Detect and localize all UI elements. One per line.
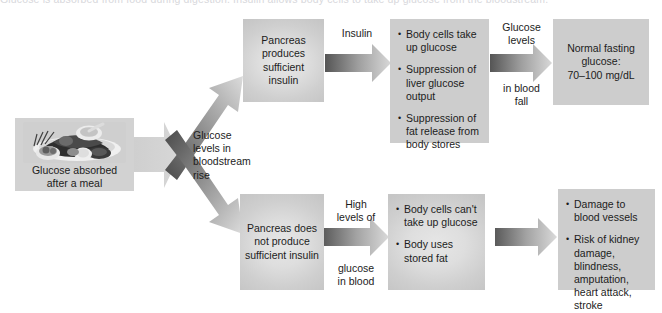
label-high-levels-of: High levels of bbox=[326, 198, 386, 224]
list-item: Suppression of fat release from body sto… bbox=[398, 112, 483, 152]
list-item: Suppression of liver glucose output bbox=[398, 63, 483, 103]
diabetic-effects-bullet-list: Body cells can't take up glucose Body us… bbox=[388, 194, 485, 271]
label-in-blood-fall: in blood fall bbox=[493, 82, 550, 108]
complications-bullet-list: Damage to blood vessels Risk of kidney d… bbox=[558, 189, 655, 313]
normal-effects-bullet-list: Body cells take up glucose Suppression o… bbox=[390, 19, 489, 158]
meal-photo bbox=[23, 122, 126, 163]
arrow-glucose-fall bbox=[490, 44, 552, 82]
label-insulin: Insulin bbox=[327, 27, 387, 40]
arrow-insulin bbox=[325, 44, 391, 82]
node-normal-insulin-effects: Body cells take up glucose Suppression o… bbox=[390, 19, 489, 143]
node-pancreas-sufficient-insulin: Pancreas produces sufficient insulin bbox=[243, 19, 324, 102]
list-item: Risk of kidney damage, blindness, amputa… bbox=[566, 233, 649, 312]
list-item: Damage to blood vessels bbox=[566, 198, 649, 224]
clipped-top-caption: Glucose is absorbed from food during dig… bbox=[0, 0, 662, 5]
node-glucose-absorbed: Glucose absorbed after a meal bbox=[15, 118, 134, 191]
label-glucose-levels: Glucose levels bbox=[493, 21, 550, 47]
diagram-canvas: Glucose is absorbed from food during dig… bbox=[0, 0, 662, 313]
list-item: Body cells take up glucose bbox=[398, 28, 483, 54]
split-connector-stub bbox=[134, 122, 180, 188]
label-glucose-levels-rise: Glucose levels in bloodstream rise bbox=[193, 129, 259, 182]
list-item: Body cells can't take up glucose bbox=[396, 203, 479, 229]
node-pancreas-insufficient-insulin: Pancreas does not produce sufficient ins… bbox=[240, 194, 324, 290]
node-diabetic-cell-effects: Body cells can't take up glucose Body us… bbox=[388, 194, 485, 290]
label-glucose-in-blood: glucose in blood bbox=[326, 262, 386, 288]
arrow-to-complications bbox=[495, 218, 557, 256]
node-normal-fasting-glucose: Normal fasting glucose: 70–100 mg/dL bbox=[553, 19, 649, 105]
meal-caption: Glucose absorbed after a meal bbox=[15, 164, 134, 190]
node-diabetes-complications: Damage to blood vessels Risk of kidney d… bbox=[558, 189, 655, 290]
list-item: Body uses stored fat bbox=[396, 238, 479, 264]
